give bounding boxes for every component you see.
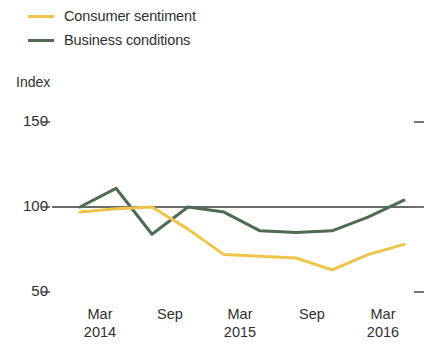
series-line-business-conditions (80, 188, 404, 234)
y-axis-ticks-right (414, 122, 424, 292)
series-line-consumer-sentiment (80, 207, 404, 270)
chart-plot-area (0, 0, 437, 346)
y-axis-ticks-left (42, 122, 50, 292)
chart-figure: Consumer sentiment Business conditions I… (0, 0, 437, 346)
